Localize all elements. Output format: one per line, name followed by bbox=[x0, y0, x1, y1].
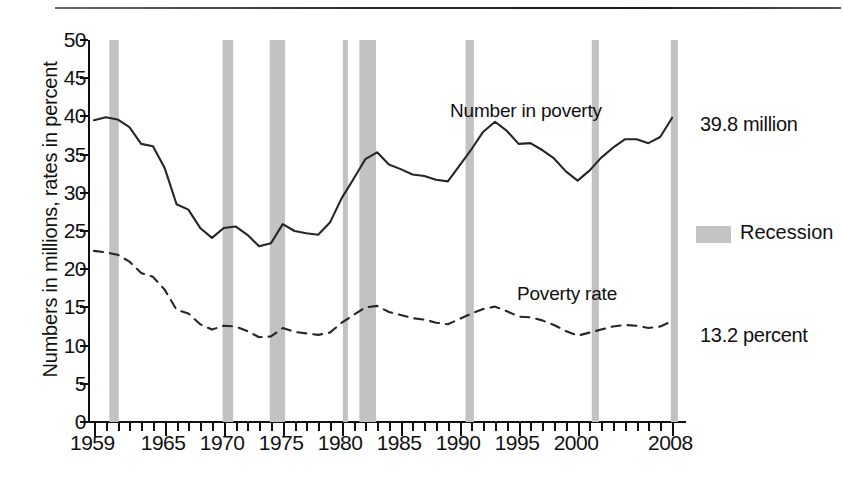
x-minor-tick-mark bbox=[613, 423, 615, 431]
recession-band bbox=[466, 40, 474, 422]
x-minor-tick-mark bbox=[188, 423, 190, 431]
y-tick-mark bbox=[80, 383, 88, 385]
page-divider-rule bbox=[55, 7, 841, 9]
x-minor-tick-mark bbox=[212, 423, 214, 431]
x-minor-tick-mark bbox=[424, 423, 426, 431]
x-tick-label: 1965 bbox=[141, 432, 186, 454]
y-tick-mark bbox=[80, 192, 88, 194]
x-minor-tick-mark bbox=[365, 423, 367, 431]
plot-area bbox=[88, 40, 680, 422]
x-tick-label: 2000 bbox=[554, 432, 599, 454]
recession-legend-swatch bbox=[696, 226, 731, 243]
recession-bands-group bbox=[109, 40, 678, 422]
x-minor-tick-mark bbox=[306, 423, 308, 431]
x-minor-tick-mark bbox=[530, 423, 532, 431]
rate-end-value: 13.2 percent bbox=[700, 324, 808, 347]
x-tick-label: 1995 bbox=[495, 432, 540, 454]
x-minor-tick-mark bbox=[354, 423, 356, 431]
x-minor-tick-mark bbox=[177, 423, 179, 431]
x-minor-tick-mark bbox=[637, 423, 639, 431]
x-minor-tick-mark bbox=[118, 423, 120, 431]
number-in-poverty-label: Number in poverty bbox=[450, 100, 602, 122]
x-minor-tick-mark bbox=[129, 423, 131, 431]
x-minor-tick-mark bbox=[648, 423, 650, 431]
x-minor-tick-mark bbox=[601, 423, 603, 431]
recession-band bbox=[109, 40, 118, 422]
x-minor-tick-mark bbox=[566, 423, 568, 431]
recession-band bbox=[359, 40, 376, 422]
number-in-poverty-line bbox=[94, 117, 672, 246]
x-minor-tick-mark bbox=[471, 423, 473, 431]
x-minor-tick-mark bbox=[200, 423, 202, 431]
y-tick-mark bbox=[80, 115, 88, 117]
y-tick-mark bbox=[80, 306, 88, 308]
x-minor-tick-mark bbox=[507, 423, 509, 431]
x-minor-tick-mark bbox=[295, 423, 297, 431]
y-tick-mark bbox=[80, 421, 88, 423]
x-tick-label: 1990 bbox=[436, 432, 481, 454]
x-tick-label: 1980 bbox=[318, 432, 363, 454]
recession-band bbox=[223, 40, 234, 422]
recession-band bbox=[343, 40, 348, 422]
x-tick-label: 2008 bbox=[648, 432, 693, 454]
recession-band bbox=[592, 40, 599, 422]
y-tick-mark bbox=[80, 154, 88, 156]
x-tick-label: 1959 bbox=[70, 432, 115, 454]
x-minor-tick-mark bbox=[448, 423, 450, 431]
x-minor-tick-mark bbox=[153, 423, 155, 431]
poverty-chart-figure: Numbers in millions, rates in percent 05… bbox=[0, 0, 843, 489]
x-minor-tick-mark bbox=[389, 423, 391, 431]
y-tick-mark bbox=[80, 77, 88, 79]
x-minor-tick-mark bbox=[412, 423, 414, 431]
x-minor-tick-mark bbox=[589, 423, 591, 431]
x-minor-tick-mark bbox=[625, 423, 627, 431]
number-end-value: 39.8 million bbox=[700, 113, 798, 136]
poverty-rate-label: Poverty rate bbox=[517, 283, 617, 305]
x-minor-tick-mark bbox=[483, 423, 485, 431]
x-minor-tick-mark bbox=[330, 423, 332, 431]
y-tick-mark bbox=[80, 345, 88, 347]
y-axis-tick-labels: 05101520253035404550 bbox=[30, 0, 86, 489]
y-tick-mark bbox=[80, 230, 88, 232]
x-minor-tick-mark bbox=[236, 423, 238, 431]
y-tick-mark bbox=[80, 268, 88, 270]
x-tick-label: 1975 bbox=[259, 432, 304, 454]
x-minor-tick-mark bbox=[495, 423, 497, 431]
x-minor-tick-mark bbox=[247, 423, 249, 431]
x-tick-label: 1970 bbox=[200, 432, 245, 454]
x-tick-label: 1985 bbox=[377, 432, 422, 454]
x-minor-tick-mark bbox=[141, 423, 143, 431]
x-minor-tick-mark bbox=[436, 423, 438, 431]
x-minor-tick-mark bbox=[271, 423, 273, 431]
x-minor-tick-mark bbox=[377, 423, 379, 431]
x-minor-tick-mark bbox=[542, 423, 544, 431]
x-minor-tick-mark bbox=[554, 423, 556, 431]
x-minor-tick-mark bbox=[660, 423, 662, 431]
x-minor-tick-mark bbox=[106, 423, 108, 431]
recession-band bbox=[671, 40, 678, 422]
x-minor-tick-mark bbox=[318, 423, 320, 431]
series-canvas bbox=[88, 40, 680, 422]
recession-legend-label: Recession bbox=[740, 221, 833, 244]
x-minor-tick-mark bbox=[259, 423, 261, 431]
y-tick-mark bbox=[80, 39, 88, 41]
